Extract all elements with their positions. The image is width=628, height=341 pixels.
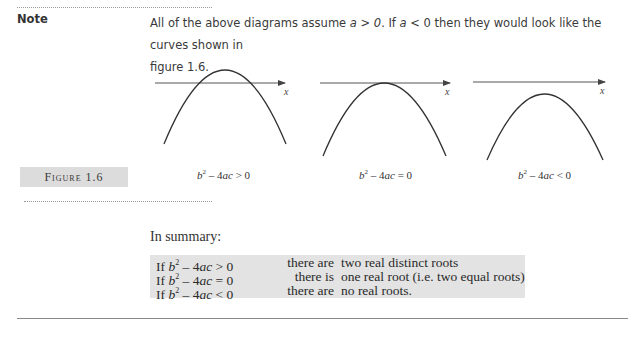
caption-relation: = 0 <box>395 169 412 181</box>
note-variable: a <box>400 16 407 30</box>
bottom-rule <box>17 318 628 319</box>
note-condition: a > 0 <box>350 16 381 30</box>
parabola-diagrams: x x x <box>0 55 628 165</box>
caption-relation: > 0 <box>233 169 250 181</box>
caption-ac: ac <box>385 169 395 181</box>
figure-label: Figure 1.6 <box>20 167 128 187</box>
diagram-two-roots: x <box>155 70 289 144</box>
diagram-no-roots: x <box>473 82 605 160</box>
parabola-curve <box>164 70 286 144</box>
if-text: If <box>156 287 168 302</box>
summary-verb: there is <box>268 270 334 284</box>
summary-heading: In summary: <box>150 229 221 245</box>
note-text: All of the above diagrams assume <box>150 16 350 30</box>
parabola-curve <box>323 83 446 156</box>
summary-result: one real root (i.e. two equal roots) <box>341 270 525 284</box>
caption-two-roots: b2 – 4ac > 0 <box>197 168 250 181</box>
caption-text: – 4 <box>527 169 544 181</box>
mid-dotted-rule <box>24 201 212 202</box>
summary-verb: there are <box>268 284 334 298</box>
caption-text: – 4 <box>368 169 385 181</box>
summary-result: no real roots. <box>341 284 412 298</box>
axis-label-x: x <box>283 86 289 97</box>
var-ac: ac <box>199 287 212 302</box>
axis-label-x: x <box>599 85 605 96</box>
axis-label-x: x <box>444 86 450 97</box>
summary-box: If b2 – 4ac > 0 there are two real disti… <box>150 255 525 298</box>
note-text: . If <box>381 16 399 30</box>
caption-one-root: b2 – 4ac = 0 <box>359 168 412 181</box>
diagram-one-root: x <box>320 83 450 156</box>
summary-verb: there are <box>268 256 334 270</box>
caption-text: – 4 <box>206 169 223 181</box>
summary-condition: If b2 – 4ac < 0 <box>156 284 233 302</box>
minus-text: – 4 <box>179 287 199 302</box>
top-dotted-rule <box>17 7 212 8</box>
parabola-curve <box>487 94 603 160</box>
caption-ac: ac <box>544 169 554 181</box>
caption-relation: < 0 <box>554 169 571 181</box>
note-label: Note <box>17 12 48 26</box>
relation: < 0 <box>212 287 233 302</box>
caption-no-roots: b2 – 4ac < 0 <box>518 168 571 181</box>
summary-result: two real distinct roots <box>341 256 458 270</box>
caption-ac: ac <box>223 169 233 181</box>
